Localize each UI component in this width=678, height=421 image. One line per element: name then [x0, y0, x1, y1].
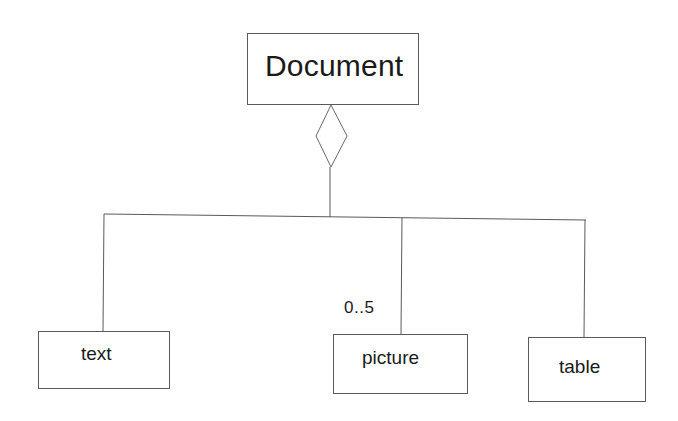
class-label-text: text: [81, 343, 112, 365]
branch-picture: [401, 218, 402, 334]
bus-line: [104, 214, 586, 220]
class-label-picture: picture: [362, 347, 419, 369]
aggregation-diamond-icon: [316, 105, 347, 167]
branch-table: [584, 220, 585, 337]
class-label-document: Document: [265, 49, 403, 83]
class-label-table: table: [559, 356, 600, 378]
branch-text: [103, 214, 104, 331]
multiplicity-label-picture: 0..5: [344, 298, 374, 318]
